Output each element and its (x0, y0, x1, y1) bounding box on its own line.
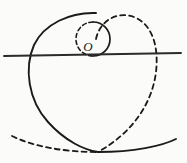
geometric-diagram: O (0, 0, 187, 163)
figure-container: O (0, 0, 187, 163)
center-point-label: O (83, 39, 93, 54)
figure-background (0, 0, 187, 163)
